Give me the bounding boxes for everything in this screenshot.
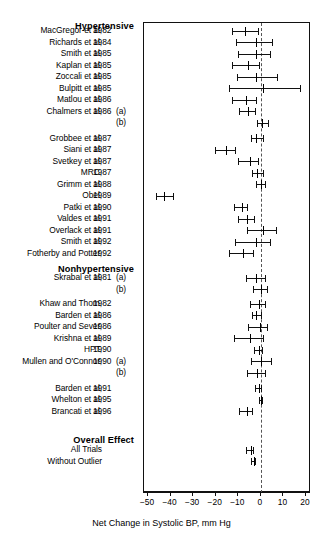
point-estimate: [261, 357, 262, 366]
ci-marker: [238, 215, 255, 224]
point-estimate: [250, 157, 251, 166]
ci-cap-upper: [256, 97, 257, 104]
study-row-label: Siani et al,1987: [0, 144, 143, 155]
ci-marker: [235, 238, 271, 247]
ci-cap-lower: [232, 62, 233, 69]
study-year: 1985: [93, 71, 111, 82]
point-estimate: [261, 285, 262, 294]
ci-cap-lower: [251, 135, 252, 142]
ci-cap-lower: [255, 385, 256, 392]
ci-marker: [246, 446, 254, 455]
ci-cap-upper: [253, 447, 254, 454]
study-suffix: (b): [116, 117, 126, 128]
point-estimate: [259, 300, 260, 309]
point-estimate: [254, 457, 255, 466]
ci-cap-upper: [267, 286, 268, 293]
point-estimate: [251, 446, 252, 455]
ci-cap-lower: [237, 74, 238, 81]
ci-cap-lower: [257, 120, 258, 127]
ci-marker: [238, 157, 258, 166]
ci-marker: [256, 180, 266, 189]
ci-marker: [252, 169, 264, 178]
study-row-label: Bulpitt et al,1985: [0, 83, 143, 94]
ci-cap-upper: [254, 216, 255, 223]
ci-cap-lower: [251, 358, 252, 365]
point-estimate: [242, 203, 243, 212]
study-year: 1987: [93, 156, 111, 167]
study-row-label: Svetkey et al,1987: [0, 156, 143, 167]
ci-cap-lower: [247, 370, 248, 377]
ci-cap-upper: [300, 85, 301, 92]
study-row-label: MacGregor et al,1982: [0, 25, 143, 36]
point-estimate: [262, 119, 263, 128]
ci-cap-upper: [247, 204, 248, 211]
point-estimate: [260, 323, 261, 332]
study-row-label: Poulter and Sever,1986: [0, 321, 143, 332]
study-suffix: (a): [116, 272, 126, 283]
ci-marker: [238, 50, 271, 59]
study-row-label: Zoccali et al,1985: [0, 71, 143, 82]
ci-line: [238, 54, 271, 55]
study-year: 1985: [93, 83, 111, 94]
plot-area: [143, 22, 310, 492]
point-estimate: [247, 215, 248, 224]
study-year: 1990: [93, 344, 111, 355]
ci-cap-lower: [248, 324, 249, 331]
study-row-label: Fotherby and Potter,1992: [0, 248, 143, 259]
study-year: 1990: [93, 202, 111, 213]
x-axis: [143, 492, 310, 493]
ci-cap-lower: [234, 335, 235, 342]
ci-cap-lower: [259, 397, 260, 404]
ci-cap-upper: [252, 408, 253, 415]
study-year: 1992: [93, 248, 111, 259]
study-row-label: MRC,1987: [0, 167, 143, 178]
x-tick: [170, 492, 171, 496]
study-year: 1996: [93, 406, 111, 417]
ci-cap-upper: [270, 51, 271, 58]
ci-cap-upper: [265, 181, 266, 188]
ci-cap-upper: [265, 275, 266, 282]
study-row-label: Chalmers et al,1986(a): [0, 106, 143, 117]
ci-marker: [232, 61, 261, 70]
ci-marker: [252, 311, 262, 320]
ci-cap-upper: [258, 158, 259, 165]
study-row-label: Barden et al,1986: [0, 310, 143, 321]
study-suffix: (a): [116, 106, 126, 117]
study-year: 1984: [93, 37, 111, 48]
ci-cap-upper: [271, 358, 272, 365]
study-suffix: (b): [116, 367, 126, 378]
ci-cap-lower: [215, 147, 216, 154]
ci-line: [236, 42, 273, 43]
study-year: 1982: [93, 25, 111, 36]
point-estimate: [256, 73, 257, 82]
ci-cap-lower: [252, 170, 253, 177]
study-row-label: Krishna et al,1989: [0, 333, 143, 344]
ci-marker: [236, 38, 273, 47]
ci-cap-upper: [270, 239, 271, 246]
study-year: 1991: [93, 213, 111, 224]
ci-line: [251, 138, 265, 139]
x-tick: [237, 492, 238, 496]
study-row-label: Without Outlier: [0, 456, 143, 467]
ci-cap-upper: [267, 324, 268, 331]
study-name: Mullen and O'Connor,: [22, 356, 102, 367]
point-estimate: [256, 274, 257, 283]
ci-line: [235, 242, 271, 243]
ci-line: [232, 100, 258, 101]
study-row-label: Valdes et al,1991: [0, 213, 143, 224]
ci-marker: [234, 334, 264, 343]
ci-marker: [251, 134, 265, 143]
x-tick-label: 20: [290, 497, 320, 507]
study-name: Fotherby and Potter,: [27, 248, 102, 259]
ci-marker: [254, 346, 263, 355]
ci-cap-upper: [261, 312, 262, 319]
ci-cap-upper: [277, 74, 278, 81]
ci-marker: [239, 107, 256, 116]
ci-cap-upper: [259, 62, 260, 69]
study-year: 1981: [93, 272, 111, 283]
ci-marker: [251, 457, 257, 466]
ci-line: [229, 253, 254, 254]
ci-cap-upper: [235, 147, 236, 154]
point-estimate: [246, 96, 247, 105]
study-row-label: (b): [0, 367, 143, 378]
